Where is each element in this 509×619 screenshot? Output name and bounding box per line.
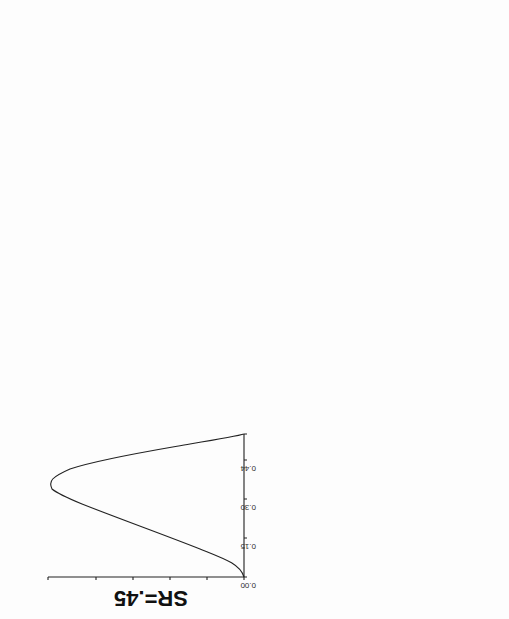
svg-text:0.30: 0.30 (240, 503, 256, 512)
svg-text:0.00: 0.00 (240, 581, 256, 590)
figure-svg: SR=.45 0.00 0.15 0.30 0.44 0.59 (0, 0, 509, 619)
panel-b: SR=.45 0.00 0.15 0.30 0.44 0.59 (48, 434, 256, 611)
svg-text:0.44: 0.44 (240, 464, 256, 473)
panel-b-sr-label: SR=.45 (114, 586, 188, 611)
figure-stage: SR=.45 0.00 0.15 0.30 0.44 0.59 (0, 0, 509, 619)
panel-b-curve (51, 434, 244, 577)
panel-b-axes (48, 434, 244, 577)
svg-text:0.15: 0.15 (240, 542, 256, 551)
panel-b-x-tick-labels: 0.00 0.15 0.30 0.44 0.59 (240, 464, 256, 590)
